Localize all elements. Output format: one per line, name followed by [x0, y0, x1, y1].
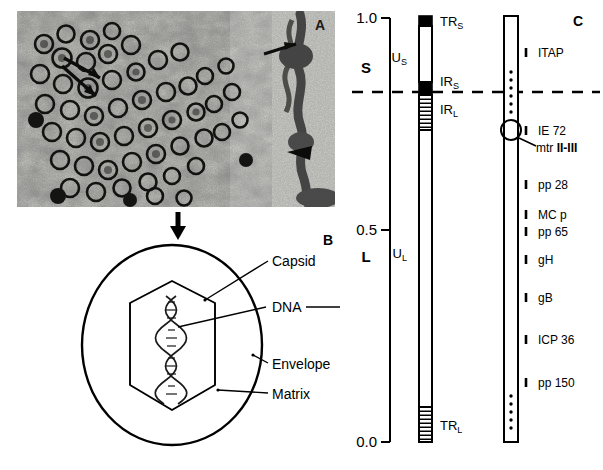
genome-structure-bar: TRS US IRS IRL UL — [392, 14, 464, 442]
axis-label-0: 0.0 — [356, 433, 377, 450]
gene-label-ie72: IE 72 — [538, 124, 566, 138]
transition-arrow-icon — [170, 212, 186, 240]
gene-label-gb: gB — [538, 291, 553, 305]
label-matrix: Matrix — [272, 386, 310, 402]
segment-us — [419, 26, 432, 82]
panel-c-gene-map: ITAP IE 72 pp 28 MC p pp 65 gH gB ICP 36… — [501, 13, 583, 442]
panel-b-letter: B — [323, 232, 333, 248]
segment-trl — [419, 407, 432, 442]
figure-container: A — [0, 0, 603, 470]
segment-label-irs: IRS — [440, 74, 459, 91]
gene-label-itap: ITAP — [538, 46, 564, 60]
region-label-l: L — [361, 248, 370, 265]
segment-label-ul: UL — [393, 246, 407, 263]
segment-label-irl: IRL — [440, 102, 458, 119]
diagram-anchor-dots — [203, 298, 254, 391]
scientific-figure: A — [0, 0, 603, 470]
panel-a-micrograph: A — [10, 11, 340, 210]
segment-label-us: US — [392, 50, 407, 67]
axis-label-0-5: 0.5 — [356, 221, 377, 238]
region-label-s: S — [361, 59, 371, 76]
segment-trs — [419, 16, 432, 26]
gene-label-mtr: mtr II-III — [536, 141, 577, 155]
segment-irl — [419, 95, 432, 130]
segment-label-trl: TRL — [440, 418, 462, 435]
axis-label-1: 1.0 — [356, 9, 377, 26]
panel-c-letter: C — [573, 13, 583, 29]
gene-label-pp65: pp 65 — [538, 225, 568, 239]
label-capsid: Capsid — [272, 253, 316, 269]
gene-label-gh: gH — [538, 253, 553, 267]
envelope-outline — [82, 245, 262, 445]
segment-label-trs: TRS — [440, 14, 463, 31]
label-envelope: Envelope — [272, 356, 331, 372]
fractional-length-axis: 1.0 0.5 0.0 S L — [356, 9, 390, 450]
gene-label-pp150: pp 150 — [538, 376, 575, 390]
gene-label-mcp: MC p — [538, 208, 567, 222]
dna-helix — [155, 296, 187, 404]
diagram-leader-lines — [178, 261, 268, 393]
gene-label-icp36: ICP 36 — [538, 333, 575, 347]
mtr-leader-line — [519, 138, 536, 146]
gene-label-pp28: pp 28 — [538, 178, 568, 192]
segment-irs — [419, 83, 432, 95]
segment-ul — [419, 130, 432, 407]
panel-a-letter: A — [315, 17, 325, 33]
label-dna: DNA — [272, 299, 302, 315]
panel-b-virion-diagram: Capsid DNA Envelope Matrix B — [82, 232, 340, 445]
